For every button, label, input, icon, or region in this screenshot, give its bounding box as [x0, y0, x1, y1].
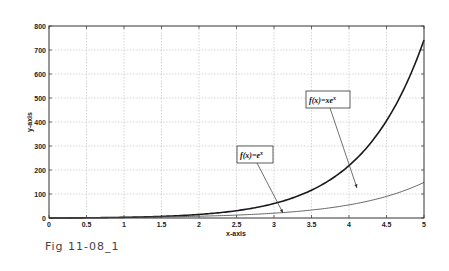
y-tick-label: 200: [34, 167, 46, 174]
x-tick-label: 0: [47, 221, 51, 228]
arrow-head-icon: [354, 184, 357, 188]
y-tick-label: 800: [34, 23, 46, 30]
y-tick-labels: 0100200300400500600700800: [34, 23, 46, 222]
x-tick-label: 0.5: [82, 221, 92, 228]
y-tick-label: 300: [34, 143, 46, 150]
y-tick-label: 500: [34, 95, 46, 102]
x-tick-label: 1.5: [157, 221, 167, 228]
annotation-label: f(x)=ex: [240, 150, 263, 160]
x-tick-label: 3: [272, 221, 276, 228]
grid-lines: [49, 26, 424, 218]
y-tick-label: 700: [34, 47, 46, 54]
x-tick-label: 4.5: [382, 221, 392, 228]
y-tick-label: 400: [34, 119, 46, 126]
x-tick-label: 5: [422, 221, 426, 228]
x-tick-label: 4: [347, 221, 351, 228]
x-tick-label: 1: [122, 221, 126, 228]
x-tick-label: 3.5: [307, 221, 317, 228]
x-tick-label: 2: [197, 221, 201, 228]
x-tick-labels: 00.511.522.533.544.55: [47, 221, 426, 228]
x-tick-label: 2.5: [232, 221, 242, 228]
y-tick-label: 600: [34, 71, 46, 78]
y-tick-label: 0: [42, 215, 46, 222]
y-tick-label: 100: [34, 191, 46, 198]
figure-caption: Fig 11-08_1: [45, 240, 120, 253]
annotation-label: f(x)=xex: [309, 95, 336, 105]
line-chart: 00.511.522.533.544.55 010020030040050060…: [0, 0, 449, 271]
curve-annotations: f(x)=xexf(x)=ex: [237, 91, 357, 213]
y-axis-label: y-axis: [26, 112, 34, 132]
x-axis-label: x-axis: [226, 230, 246, 237]
